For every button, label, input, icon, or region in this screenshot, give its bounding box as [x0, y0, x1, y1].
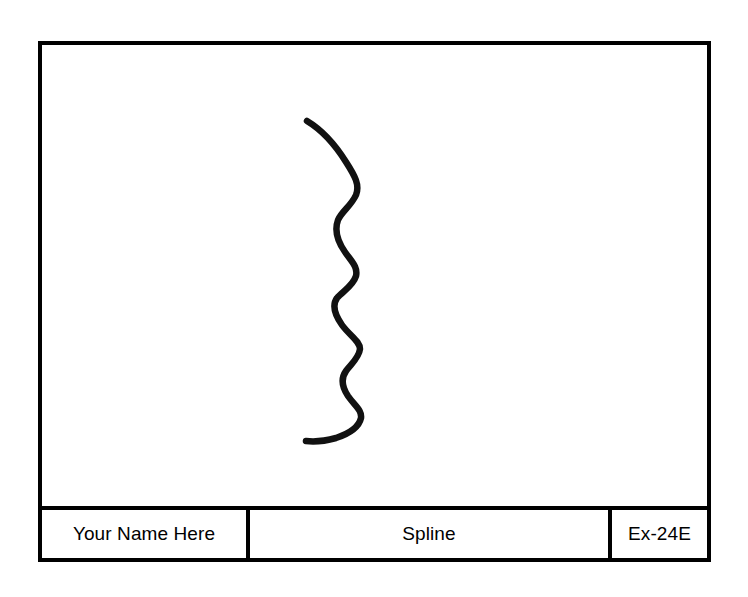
- title-block-drawing-title[interactable]: Spline: [250, 510, 612, 558]
- title-block-name-field[interactable]: Your Name Here: [42, 510, 250, 558]
- spline-canvas[interactable]: [42, 45, 707, 510]
- title-block: Your Name Here Spline Ex-24E: [42, 506, 707, 558]
- title-block-exercise-code[interactable]: Ex-24E: [612, 510, 707, 558]
- drawing-sheet: Your Name Here Spline Ex-24E: [0, 0, 748, 597]
- drawing-frame-border: Your Name Here Spline Ex-24E: [38, 41, 711, 562]
- drawing-viewport[interactable]: [42, 45, 707, 510]
- spline-curve[interactable]: [306, 121, 361, 441]
